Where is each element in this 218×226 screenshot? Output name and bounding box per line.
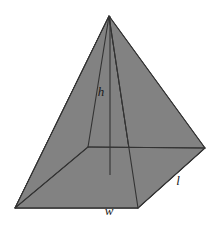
pyramid-figure: h w l bbox=[0, 0, 218, 226]
height-label: h bbox=[98, 84, 105, 99]
length-label: l bbox=[176, 173, 180, 188]
width-label: w bbox=[105, 203, 114, 218]
pyramid-diagram: h w l bbox=[0, 0, 218, 226]
